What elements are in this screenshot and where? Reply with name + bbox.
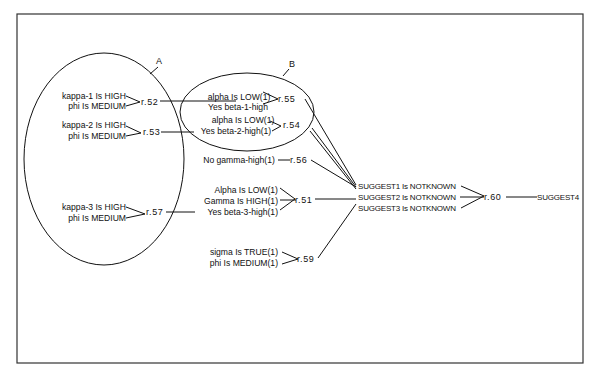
rule-r51-input-3: Yes beta-3-high(1) [208,207,279,217]
rule-r56-input-1: No gamma-high(1) [203,155,275,165]
rule-r57-input-1: kappa-3 Is HIGH [62,202,126,212]
rule-r56-node: r.56 [290,155,307,165]
rule-r56: No gamma-high(1) r.56 [203,155,307,165]
rule-r55-input-2: Yes beta-1-high [208,102,268,112]
rule-r54-input-2: Yes beta-2-high(1) [201,126,272,136]
rule-r52-input-1: kappa-1 Is HIGH [62,91,126,101]
rule-r54-input-1: alpha Is LOW(1) [212,115,275,125]
rule-r59-node: r.59 [297,254,314,264]
rule-r51-input-2: Gamma Is HIGH(1) [204,196,278,206]
rule-r52-input-2: phi Is MEDIUM [68,101,126,111]
rule-r55-node: r.55 [278,94,295,104]
diagram-frame [17,14,583,363]
rule-r60-input-1: SUGGEST1 Is NOTKNOWN [358,182,456,191]
rule-r53-node: r.53 [143,127,160,137]
rule-r51-node: r.51 [295,195,312,205]
rule-r57-input-2: phi Is MEDIUM [68,213,126,223]
rule-r54-node: r.54 [283,120,300,130]
group-b-label: B [289,59,295,69]
rule-r60-node: r.60 [484,192,501,202]
rule-r53-input-1: kappa-2 Is HIGH [62,120,126,130]
rule-network-diagram: A B kappa-1 Is HIGH phi Is MEDIUM r.52 k… [0,0,597,371]
rule-r53-input-2: phi Is MEDIUM [68,131,126,141]
rule-r57-node: r.57 [146,207,163,217]
rule-r52-node: r.52 [141,97,158,107]
rule-r59-input-2: phi Is MEDIUM(1) [210,258,278,268]
rule-r51-input-1: Alpha Is LOW(1) [214,185,278,195]
rule-r59-input-1: sigma Is TRUE(1) [210,247,278,257]
rule-r60-input-3: SUGGEST3 Is NOTKNOWN [358,204,456,213]
group-a-label: A [156,56,162,66]
output-suggest4: SUGGEST4 [537,193,580,202]
rule-r60-input-2: SUGGEST2 Is NOTKNOWN [358,193,456,202]
rule-r55-input-1: alpha Is LOW(1) [208,92,271,102]
